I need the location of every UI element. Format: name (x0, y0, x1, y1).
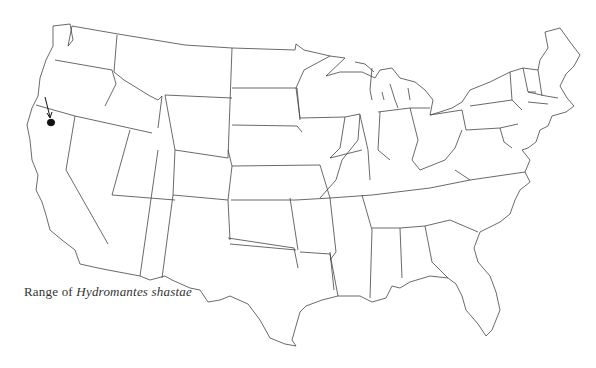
great-lakes (355, 62, 410, 108)
us-state-outline-map (0, 0, 596, 368)
range-marker (47, 119, 54, 126)
state-borders (36, 35, 558, 298)
caption-prefix: Range of (24, 284, 76, 299)
caption-species: Hydromantes shastae (76, 284, 192, 299)
map-caption: Range of Hydromantes shastae (24, 284, 192, 300)
